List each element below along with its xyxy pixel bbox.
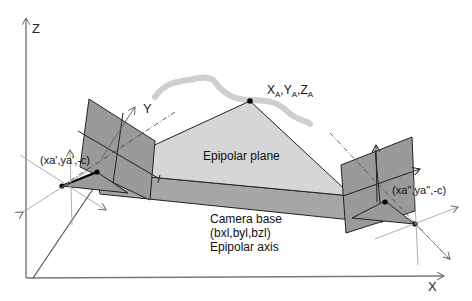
z-axis-label: Z	[32, 22, 40, 35]
x-axis	[26, 276, 444, 278]
camera-base-title: Camera base	[210, 212, 282, 226]
right-image-point	[382, 199, 387, 204]
y-axis-label: Y	[143, 102, 152, 115]
left-image-point	[94, 169, 99, 174]
epipolar-axis-label: Epipolar axis	[210, 240, 282, 254]
epipolar-plane-label: Epipolar plane	[203, 150, 280, 163]
right-camera	[330, 133, 458, 265]
right-image-point-label: (xa'',ya'',-c)	[392, 184, 446, 197]
epipolar-diagram: Z X Y XA,YA,ZA Epipolar plane Camera bas…	[0, 0, 472, 301]
x-axis-label: X	[428, 280, 437, 293]
camera-base-vector: (bxl,byl,bzl)	[210, 226, 282, 240]
camera-base-label: Camera base (bxl,byl,bzl) Epipolar axis	[210, 212, 282, 254]
object-point-label: XA,YA,ZA	[267, 84, 313, 97]
left-image-point-label: (xa',ya',-c)	[40, 154, 90, 167]
object-point-a	[247, 98, 253, 104]
